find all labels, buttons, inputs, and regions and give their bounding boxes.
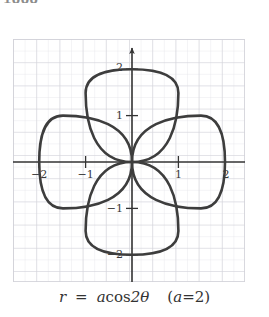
page-header-fragment: 1000 xyxy=(3,0,38,3)
y-tick-label-neg1: −1 xyxy=(107,202,123,215)
y-tick-label-pos1: 1 xyxy=(116,109,123,122)
caption-paren-close: ) xyxy=(204,288,210,306)
caption-a-value: 2 xyxy=(195,288,205,306)
caption-equals-2: = xyxy=(182,288,195,306)
x-tick-label-neg2: −2 xyxy=(31,168,47,181)
figure-caption: r=acos2θ(a=2) xyxy=(0,288,269,306)
caption-a: a xyxy=(97,288,106,306)
plot-area: −2 −1 1 2 2 1 −1 −2 x y xyxy=(13,39,245,282)
grid-major-lines xyxy=(13,39,245,282)
caption-r: r xyxy=(59,288,66,306)
polar-rose-figure: 1000 xyxy=(0,0,269,317)
rose-curve-plot: −2 −1 1 2 2 1 −1 −2 x y xyxy=(13,39,245,282)
y-tick-label-pos2: 2 xyxy=(116,61,123,74)
x-tick-label-pos2: 2 xyxy=(223,168,230,181)
x-tick-label-pos1: 1 xyxy=(175,168,182,181)
caption-two-theta: 2θ xyxy=(131,288,150,306)
y-tick-label-neg2: −2 xyxy=(107,248,123,261)
caption-equals: = xyxy=(75,288,88,306)
caption-a-param: a xyxy=(173,288,182,306)
x-tick-label-neg1: −1 xyxy=(77,168,93,181)
caption-cos: cos xyxy=(106,288,131,306)
